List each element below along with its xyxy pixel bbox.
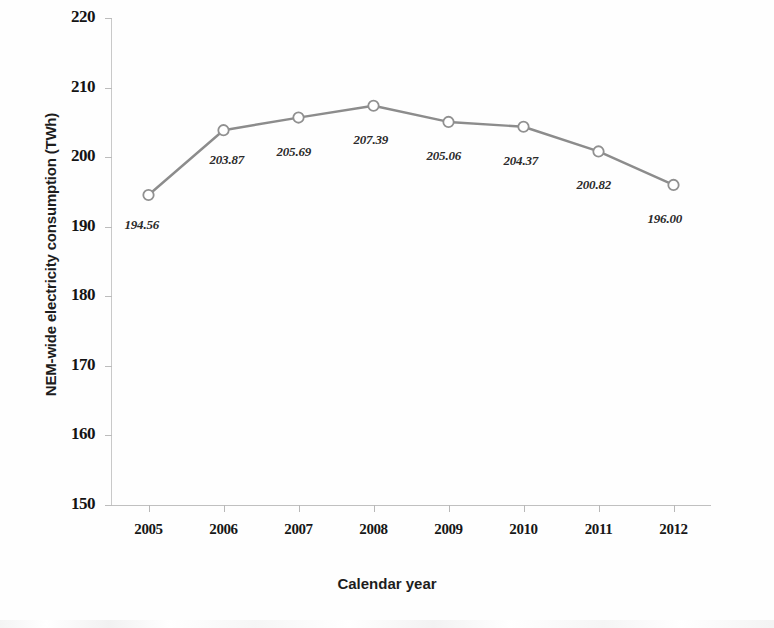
data-point-label: 204.37 [504,153,539,169]
data-point-marker [218,125,228,135]
x-tick-mark [299,505,300,512]
x-tick-label: 2007 [264,521,334,538]
x-tick-label: 2009 [414,521,484,538]
data-point-marker [518,122,528,132]
y-tick-label: 150 [39,494,95,514]
x-tick-mark [524,505,525,512]
x-tick-mark [224,505,225,512]
x-tick-mark [374,505,375,512]
y-tick-label: 190 [39,216,95,236]
y-tick-label: 180 [39,285,95,305]
x-tick-mark [449,505,450,512]
x-tick-label: 2008 [339,521,409,538]
x-tick-mark [149,505,150,512]
x-tick-mark [674,505,675,512]
data-point-label: 194.56 [125,217,160,233]
y-tick-mark [105,505,112,506]
x-tick-label: 2010 [489,521,559,538]
y-tick-label: 210 [39,77,95,97]
chart-figure: NEM-wide electricity consumption (TWh) 2… [0,0,774,628]
data-point-label: 200.82 [577,177,612,193]
y-tick-label: 170 [39,355,95,375]
data-point-marker [143,190,153,200]
data-point-label: 207.39 [354,132,389,148]
y-tick-label: 160 [39,424,95,444]
data-point-label: 196.00 [648,211,683,227]
x-tick-mark [599,505,600,512]
x-tick-label: 2006 [189,521,259,538]
data-point-label: 203.87 [210,152,245,168]
x-tick-label: 2012 [639,521,709,538]
x-tick-label: 2011 [564,521,634,538]
data-point-label: 205.69 [277,144,312,160]
data-point-label: 205.06 [427,148,462,164]
x-axis-title: Calendar year [0,575,774,592]
scan-artifact [0,620,774,628]
data-point-marker [593,146,603,156]
data-point-marker [443,117,453,127]
data-point-marker [293,112,303,122]
x-axis-line [111,505,711,506]
data-point-marker [668,180,678,190]
series-line [111,18,711,505]
y-tick-label: 220 [39,7,95,27]
data-point-marker [368,101,378,111]
plot-area: 220210200190180170160150 200520062007200… [111,18,711,505]
x-tick-label: 2005 [114,521,184,538]
y-tick-label: 200 [39,146,95,166]
